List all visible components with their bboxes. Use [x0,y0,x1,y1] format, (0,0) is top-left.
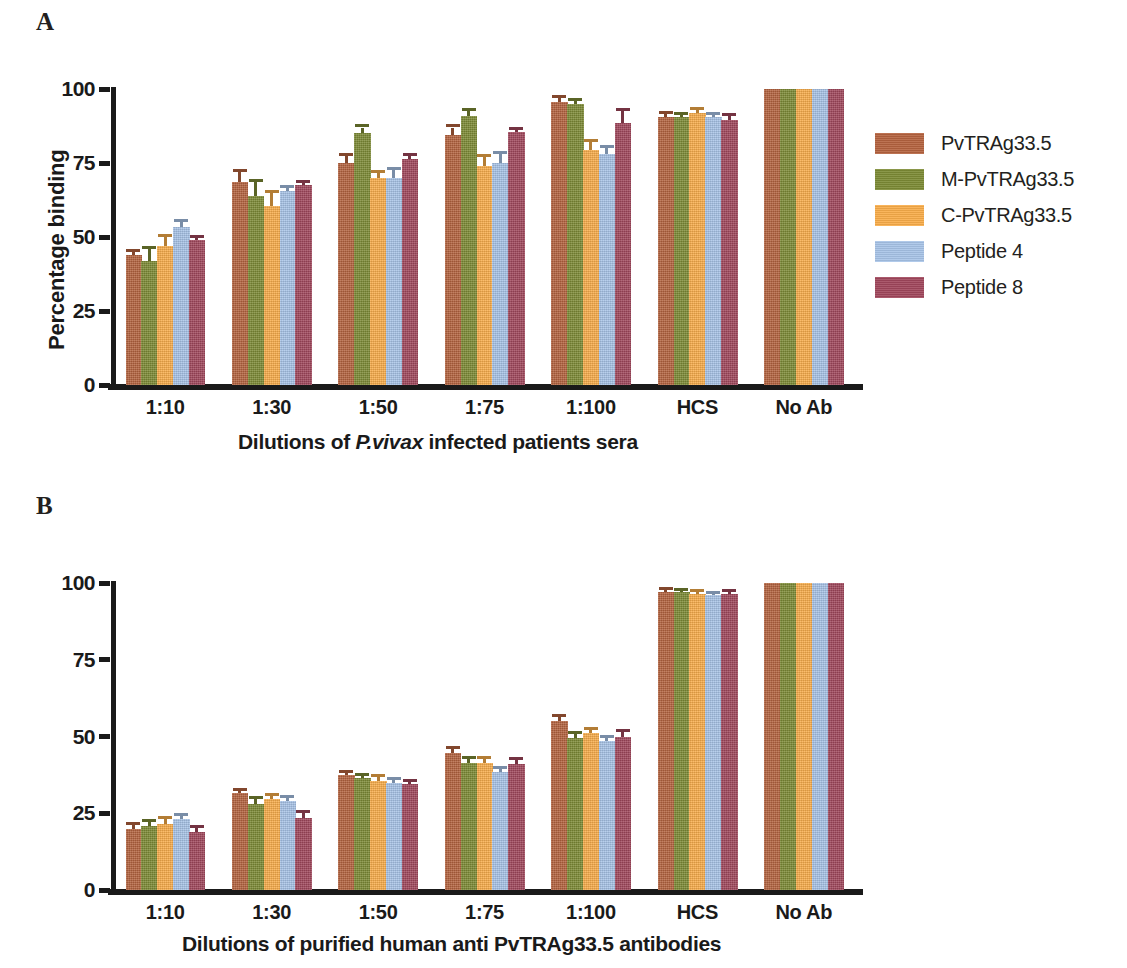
error-bar-stem [574,734,577,738]
bar-M-PvTRAg335-1-100 [567,738,583,890]
bar-PvTRAg335-1-50 [338,163,354,385]
bar-Peptide8-1-50 [402,159,418,385]
bar-M-PvTRAg335-No-Ab [780,583,796,890]
bar-group-no-ab [764,583,843,890]
error-bar-cap [403,779,417,782]
error-bar-cap [706,112,720,115]
error-bar-cap [280,795,294,798]
bar-PvTRAg335-HCS [658,117,674,385]
error-bar-cap [339,153,353,156]
bar-C-PvTRAg335-HCS [689,113,705,385]
legend-item: Peptide 8 [875,269,1127,305]
x-category-label: 1:75 [431,901,537,924]
error-bar-cap [371,774,385,777]
error-bar-cap [477,154,491,157]
error-bar-cap [446,124,460,127]
bar-M-PvTRAg335-1-100 [567,104,583,385]
panel-a-letter: A [36,8,54,36]
bar-Peptide4-1-30 [280,801,296,890]
error-bar-stem [574,101,577,104]
error-bar-cap [493,766,507,769]
panel-a: A Percentage binding 0255075100 PvTRAg33… [0,0,1127,484]
error-bar-cap [126,249,140,252]
x-category-label: HCS [644,901,750,924]
error-bar-stem [361,776,364,778]
bar-PvTRAg335-1-100 [551,721,567,890]
bar-M-PvTRAg335-1-10 [141,826,157,890]
y-tick-50 [99,734,110,739]
y-tick-25 [99,309,110,314]
error-bar-cap [674,112,688,115]
bar-M-PvTRAg335-HCS [674,592,690,890]
legend-swatch-5 [875,277,924,298]
error-bar-stem [558,98,561,102]
x-category-label: No Ab [751,901,857,924]
y-tick-0 [99,888,110,893]
bar-C-PvTRAg335-1-10 [157,246,173,385]
bar-group-hcs [658,89,737,385]
error-bar-cap [600,145,614,148]
error-bar-stem [377,777,380,781]
x-category-label: HCS [644,396,750,419]
error-bar-cap [403,153,417,156]
error-bar-stem [345,773,348,775]
x-axis-title: Dilutions of P.vivax infected patients s… [238,430,638,454]
y-tick-label-25: 25 [73,801,95,825]
bar-C-PvTRAg335-1-30 [264,799,280,890]
error-bar-stem [238,172,241,182]
bar-PvTRAg335-1-100 [551,102,567,385]
bar-PvTRAg335-1-30 [232,182,248,385]
bar-C-PvTRAg335-No-Ab [796,583,812,890]
y-tick-75 [99,657,110,662]
bar-PvTRAg335-1-10 [126,829,142,890]
bar-Peptide4-1-10 [173,819,189,890]
error-bar-stem [499,769,502,772]
panel-a-y-axis-title: Percentage binding [44,149,70,350]
bar-Peptide8-1-30 [295,818,311,890]
bar-C-PvTRAg335-No-Ab [796,89,812,385]
bar-M-PvTRAg335-1-30 [248,196,264,385]
x-category-label: 1:50 [325,396,431,419]
bar-Peptide8-HCS [721,120,737,385]
bar-C-PvTRAg335-1-30 [264,206,280,385]
y-tick-0 [99,383,110,388]
error-bar-cap [690,589,704,592]
error-bar-stem [180,222,183,226]
panel-b: B Percentage binding 0255075100 PvTRAg33… [0,484,1127,968]
bar-PvTRAg335-1-10 [126,255,142,385]
error-bar-cap [659,111,673,114]
bar-group-1-30 [232,89,311,385]
error-bar-cap [158,234,172,237]
error-bar-cap [722,589,736,592]
bar-Peptide8-1-10 [189,832,205,890]
legend-swatch-3 [875,205,924,226]
legend-label: Peptide 8 [941,276,1023,299]
legend-label: C-PvTRAg33.5 [941,204,1072,227]
error-bar-stem [712,115,715,117]
legend-item: Peptide 4 [875,233,1127,269]
y-tick-label-75: 75 [73,151,95,175]
y-tick-25 [99,811,110,816]
error-bar-cap [477,756,491,759]
error-bar-cap [355,773,369,776]
x-category-label: No Ab [751,396,857,419]
error-bar-cap [509,757,523,760]
bar-C-PvTRAg335-1-10 [157,824,173,890]
error-bar-stem [195,828,198,832]
panel-b-y-axis [111,581,116,892]
error-bar-stem [605,738,608,741]
error-bar-cap [462,756,476,759]
bar-Peptide8-1-50 [402,784,418,890]
bar-Peptide4-1-10 [173,227,189,385]
error-bar-stem [664,590,667,592]
error-bar-stem [680,115,683,117]
error-bar-stem [195,238,198,240]
y-tick-label-75: 75 [73,648,95,672]
x-category-label: 1:100 [538,901,644,924]
error-bar-stem [238,791,241,793]
bar-PvTRAg335-No-Ab [764,583,780,890]
legend-item: C-PvTRAg33.5 [875,197,1127,233]
bar-Peptide8-1-100 [615,123,631,385]
legend-swatch-4 [875,241,924,262]
y-tick-label-50: 50 [73,225,95,249]
